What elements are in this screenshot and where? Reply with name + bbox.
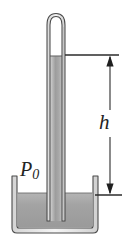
height-label: h [99, 112, 110, 133]
atmospheric-pressure-label: P0 [20, 159, 39, 182]
pressure-subscript: 0 [32, 167, 39, 182]
barometer-illustration [0, 0, 132, 242]
dimension-arrowhead-down [106, 184, 113, 195]
tube-mercury-column [50, 56, 62, 221]
pressure-symbol: P [20, 158, 32, 180]
barometer-tube [47, 14, 65, 222]
dimension-arrowhead-up [106, 56, 113, 67]
barometer-figure: h P0 [0, 0, 132, 242]
height-dimension [65, 55, 122, 195]
